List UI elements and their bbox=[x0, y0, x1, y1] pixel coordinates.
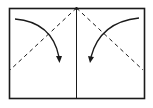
right-valley-fold-line bbox=[77, 8, 144, 70]
left-valley-fold-line bbox=[10, 8, 77, 70]
right-fold-arrow-icon bbox=[88, 18, 139, 63]
apex-point bbox=[75, 7, 78, 10]
left-fold-arrow-icon bbox=[15, 19, 62, 63]
origami-diagram bbox=[0, 0, 153, 108]
